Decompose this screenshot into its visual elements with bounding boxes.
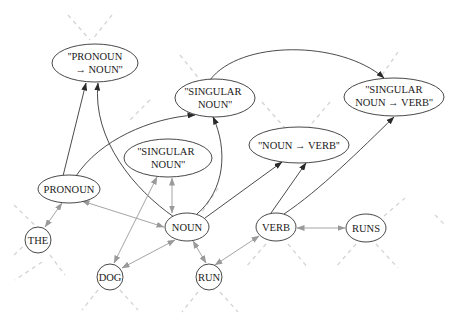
node-dog[interactable]: DOG [97, 264, 123, 290]
node-singular-noun-mid[interactable]: ''SINGULAR NOUN'' [124, 139, 212, 177]
node-label: NOUN [172, 222, 203, 233]
node-runs[interactable]: RUNS [346, 214, 386, 242]
edge-pronoun-to-pronoun-noun [63, 83, 86, 176]
edge-run-verb [215, 236, 259, 265]
node-noun[interactable]: NOUN [165, 213, 209, 241]
node-pronoun[interactable]: PRONOUN [38, 175, 100, 203]
node-the[interactable]: THE [25, 227, 51, 253]
node-label-line1: ''SINGULAR [185, 86, 242, 97]
node-label-line2: NOUN → VERB'' [355, 97, 433, 108]
node-label-line2: → NOUN'' [75, 64, 122, 75]
graph-canvas: ''PRONOUN → NOUN'' ''SINGULAR NOUN'' ''S… [0, 0, 453, 325]
node-label-line1: ''SINGULAR [138, 146, 195, 157]
node-singular-noun-verb-rule[interactable]: ''SINGULAR NOUN → VERB'' [344, 78, 444, 116]
node-label: THE [28, 235, 48, 246]
edge-singular-noun-mid-dog [114, 177, 157, 263]
node-label-line1: ''SINGULAR [366, 84, 423, 95]
edge-noun-run [193, 241, 206, 263]
node-noun-verb-rule[interactable]: ''NOUN → VERB'' [249, 127, 349, 163]
node-label: VERB [262, 222, 290, 233]
node-label-line2: NOUN'' [198, 99, 232, 110]
edge-verb-to-noun-verb [271, 163, 306, 213]
node-label-line1: ''PRONOUN [68, 51, 123, 62]
node-label: DOG [99, 272, 122, 283]
edge-pronoun-the [45, 203, 62, 227]
edge-singular-noun-top-to-singular-noun-verb [210, 50, 384, 80]
node-singular-noun-top[interactable]: ''SINGULAR NOUN'' [175, 79, 255, 117]
node-pronoun-noun-rule[interactable]: ''PRONOUN → NOUN'' [52, 44, 138, 82]
node-verb[interactable]: VERB [256, 213, 296, 241]
node-label: RUN [198, 272, 221, 283]
node-run[interactable]: RUN [196, 264, 222, 290]
node-label: PRONOUN [44, 184, 95, 195]
node-label: ''NOUN → VERB'' [258, 140, 340, 151]
edge-noun-dog [122, 240, 175, 268]
edge-pronoun-noun [82, 201, 164, 227]
node-label-line2: NOUN'' [151, 159, 185, 170]
graph-svg: ''PRONOUN → NOUN'' ''SINGULAR NOUN'' ''S… [0, 0, 453, 325]
node-label: RUNS [352, 223, 380, 234]
